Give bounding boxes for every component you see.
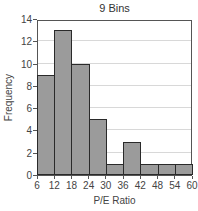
y-tick-mark <box>33 86 37 87</box>
x-tick-mark <box>174 176 175 179</box>
y-tick-label: 14 <box>18 14 32 25</box>
y-tick-mark <box>33 153 37 154</box>
histogram-bar <box>175 164 193 175</box>
y-tick-mark <box>33 108 37 109</box>
histogram-bar <box>106 164 124 175</box>
x-tick-mark <box>157 176 158 179</box>
y-tick-label: 4 <box>18 125 32 136</box>
y-tick-mark <box>33 19 37 20</box>
y-axis-label: Frequency <box>3 68 14 128</box>
y-tick-label: 2 <box>18 148 32 159</box>
y-tick-label: 12 <box>18 36 32 47</box>
x-tick-mark <box>192 176 193 179</box>
y-tick-label: 10 <box>18 59 32 70</box>
x-tick-mark <box>105 176 106 179</box>
x-tick-label: 60 <box>182 180 198 191</box>
y-tick-label: 8 <box>18 81 32 92</box>
y-tick-mark <box>33 41 37 42</box>
histogram-bar <box>71 64 89 175</box>
histogram-bar <box>89 119 107 175</box>
y-tick-mark <box>33 64 37 65</box>
y-tick-label: 6 <box>18 103 32 114</box>
histogram-bar <box>140 164 158 175</box>
x-tick-mark <box>54 176 55 179</box>
plot-area <box>37 20 192 176</box>
x-tick-mark <box>37 176 38 179</box>
histogram-bar <box>158 164 176 175</box>
y-tick-mark <box>33 130 37 131</box>
chart-title: 9 Bins <box>37 2 192 14</box>
x-tick-mark <box>71 176 72 179</box>
x-tick-mark <box>88 176 89 179</box>
x-tick-mark <box>123 176 124 179</box>
histogram-bar <box>37 75 55 175</box>
x-tick-mark <box>140 176 141 179</box>
x-axis-label: P/E Ratio <box>37 195 192 206</box>
histogram-bar <box>123 142 141 175</box>
histogram-bar <box>54 30 72 175</box>
